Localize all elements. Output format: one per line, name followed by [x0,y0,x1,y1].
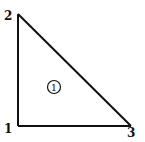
edge-2-3 [18,14,131,126]
node-label-2: 2 [4,9,12,23]
node-label-3: 3 [127,126,135,140]
element-number-label: 1 [51,82,57,93]
node-label-1: 1 [4,122,12,136]
triangle-element-diagram: 2 1 3 1 [0,0,145,142]
